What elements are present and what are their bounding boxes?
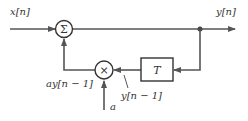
input-label: x[n]	[10, 6, 30, 17]
block-diagram: Σ × T x[n] y[n] ay[n − 1] y[n − 1] a	[0, 0, 248, 121]
delay-block: T	[141, 58, 173, 81]
multiplier-node: ×	[95, 61, 113, 79]
scaled-feedback-label: ay[n − 1]	[46, 78, 93, 89]
label-pointer-line	[124, 75, 128, 88]
multiply-icon: ×	[99, 64, 108, 77]
coefficient-label: a	[110, 101, 116, 112]
delayed-output-label: y[n − 1]	[120, 90, 162, 101]
sigma-icon: Σ	[60, 23, 68, 36]
output-label: y[n]	[215, 6, 236, 17]
feedback-line	[174, 29, 200, 70]
summer-node: Σ	[56, 21, 73, 38]
scaled-feedback-line	[64, 39, 95, 70]
